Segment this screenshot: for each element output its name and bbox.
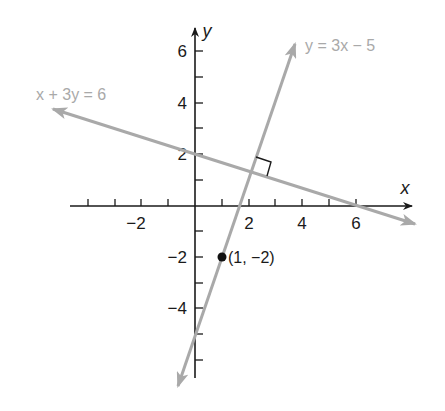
equation-label-x-plus-3y: x + 3y = 6	[36, 86, 106, 103]
x-axis-ticks	[88, 199, 356, 206]
y-tick-label-neg4: −4	[168, 299, 187, 318]
x-tick-label-6: 6	[351, 214, 360, 233]
line-y-equals-3x-minus-5: y = 3x − 5	[178, 37, 375, 386]
y-axis-label: y	[201, 21, 213, 41]
y-tick-label-6: 6	[178, 42, 187, 61]
x-tick-label-neg2: −2	[126, 214, 145, 233]
y-axis: 6 4 2 −2 −4 y	[168, 21, 213, 378]
point-label: (1, −2)	[228, 249, 275, 266]
equation-label-y-3x-minus-5: y = 3x − 5	[305, 37, 375, 54]
x-tick-label-2: 2	[244, 214, 253, 233]
y-tick-label-neg2: −2	[168, 248, 187, 267]
point-1-neg2: (1, −2)	[218, 249, 275, 266]
x-tick-label-4: 4	[297, 214, 306, 233]
y-tick-label-4: 4	[178, 94, 187, 113]
line-x-plus-3y-equals-6: x + 3y = 6	[36, 86, 415, 224]
coordinate-plane: −2 2 4 6 x 6 4 2 −2 −4 y x + 3y	[0, 0, 445, 411]
x-axis-label: x	[400, 178, 411, 198]
